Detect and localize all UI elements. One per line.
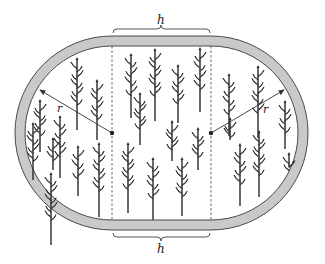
left-radius-label: r bbox=[57, 102, 63, 115]
right-radius-arrow bbox=[211, 90, 284, 133]
plant-icon bbox=[234, 143, 246, 206]
plant-icon bbox=[253, 130, 265, 197]
diagram-canvas: h h r r bbox=[0, 0, 325, 264]
plant-icon bbox=[72, 145, 84, 196]
plant-icon bbox=[34, 99, 46, 152]
bottom-brace bbox=[113, 233, 210, 241]
plant-icon bbox=[224, 117, 236, 140]
stadium-field-diagram: h h r r bbox=[0, 0, 325, 264]
bottom-length-label: h bbox=[157, 242, 165, 256]
plant-icon bbox=[194, 47, 206, 112]
plant-icon bbox=[134, 92, 146, 145]
plant-icon bbox=[172, 64, 184, 123]
right-radius-label: r bbox=[263, 103, 269, 116]
plant-icon bbox=[71, 57, 83, 130]
plant-icon bbox=[122, 142, 134, 213]
plant-icon bbox=[252, 65, 264, 138]
plant-icon bbox=[149, 48, 161, 121]
plant-icon bbox=[192, 127, 204, 170]
right-center-dot bbox=[209, 131, 213, 135]
plant-icon bbox=[125, 53, 137, 118]
plant-icon bbox=[93, 142, 105, 217]
plant-icon bbox=[166, 120, 178, 161]
top-length-label: h bbox=[157, 13, 165, 27]
plant-icon bbox=[91, 79, 103, 140]
plant-icon bbox=[147, 157, 159, 220]
plant-icon bbox=[176, 157, 188, 216]
plant-icon bbox=[279, 100, 291, 149]
track-ring bbox=[15, 36, 308, 230]
left-center-dot bbox=[110, 131, 114, 135]
